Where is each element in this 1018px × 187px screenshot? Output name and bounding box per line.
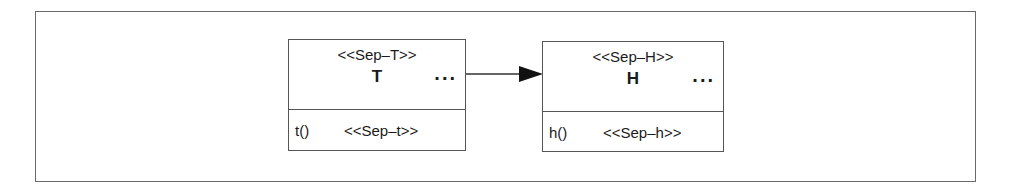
association-arrow [0,0,1018,187]
class-stereotype: <<Sep–H>> [543,48,723,65]
class-header-h: <<Sep–H>> H ... [543,42,723,112]
operation-stereotype: <<Sep–h>> [603,124,681,141]
class-box-h[interactable]: <<Sep–H>> H ... h() <<Sep–h>> [542,41,724,152]
ellipsis-icon: ... [692,64,715,87]
class-operation: h() [549,124,567,141]
